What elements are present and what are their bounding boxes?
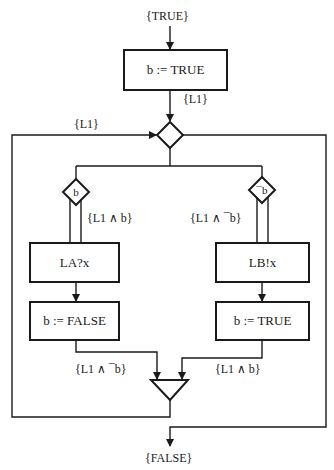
guard-b-text: b [72, 185, 80, 199]
la-receive-text: LA?x [30, 256, 119, 270]
end-assertion: {FALSE} [145, 451, 192, 465]
loop-assertion: {L1} [74, 117, 99, 131]
lb-send-text: LB!x [216, 256, 309, 270]
exit-line [170, 135, 326, 446]
b-false-text: b := FALSE [30, 314, 119, 328]
left-branch-assertion: {L1 ∧ b} [87, 211, 133, 225]
right-post-assertion: {L1 ∧ b} [215, 362, 261, 376]
b-true-text: b := TRUE [216, 314, 309, 328]
after-init-assertion: {L1} [183, 92, 208, 106]
init-box-text: b := TRUE [124, 63, 227, 77]
start-assertion: {TRUE} [146, 9, 189, 23]
merge-triangle [151, 380, 188, 400]
right-branch-assertion: {L1 ∧ ¯b} [190, 211, 242, 225]
loop-decision-diamond [157, 122, 183, 148]
guard-not-b-text: ¯b [256, 183, 268, 197]
left-post-assertion: {L1 ∧ ¯b} [75, 362, 127, 376]
